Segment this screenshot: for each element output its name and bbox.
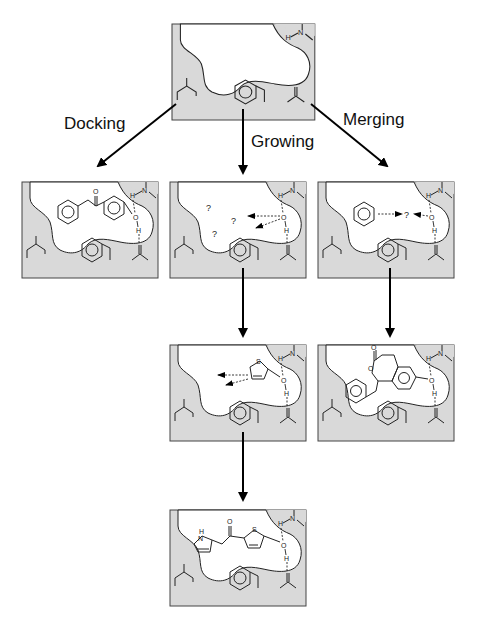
panel-merging-result: O O xyxy=(318,344,454,441)
label-growing: Growing xyxy=(251,132,314,152)
svg-text:O: O xyxy=(93,188,99,195)
panel-growing-result: H N O S xyxy=(170,510,306,606)
svg-text:O: O xyxy=(371,344,377,351)
svg-text:?: ? xyxy=(206,203,211,213)
fragment-design-diagram: N H O H O xyxy=(0,0,478,617)
svg-text:?: ? xyxy=(212,229,217,239)
panel-growing-step2: S xyxy=(170,345,306,441)
panel-docking-result: O xyxy=(22,182,158,278)
svg-text:S: S xyxy=(252,526,257,533)
svg-text:O: O xyxy=(368,365,374,372)
svg-text:H: H xyxy=(199,528,204,535)
svg-text:S: S xyxy=(256,358,261,365)
panel-merging-start: ? xyxy=(318,182,454,278)
svg-text:?: ? xyxy=(404,210,409,220)
label-merging: Merging xyxy=(343,110,404,130)
panel-empty-pocket xyxy=(172,24,315,120)
svg-text:N: N xyxy=(198,535,203,542)
svg-text:O: O xyxy=(227,518,233,525)
svg-text:?: ? xyxy=(231,216,236,226)
label-docking: Docking xyxy=(64,114,125,134)
panel-growing-start: ? ? ? xyxy=(170,182,306,278)
